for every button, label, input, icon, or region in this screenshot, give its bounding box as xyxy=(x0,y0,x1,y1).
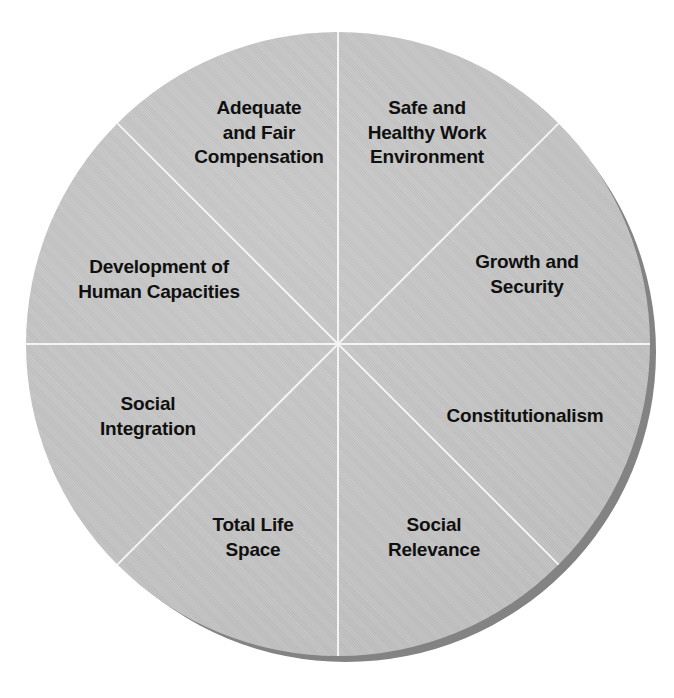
wheel-disc xyxy=(26,32,650,656)
wheel-diagram-figure: Adequate and Fair Compensation Safe and … xyxy=(0,0,674,698)
